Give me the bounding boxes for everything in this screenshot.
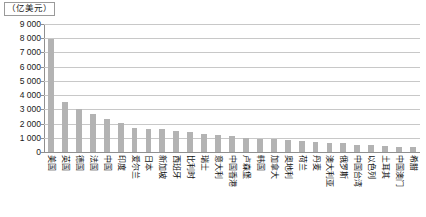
x-label-slot: 土耳其 bbox=[378, 153, 392, 217]
gridline bbox=[44, 52, 420, 53]
bar bbox=[187, 132, 193, 152]
x-label-slot: 中国台湾 bbox=[350, 153, 364, 217]
gridline bbox=[44, 24, 420, 25]
x-label-slot: 卢森堡 bbox=[239, 153, 253, 217]
bar bbox=[62, 102, 68, 152]
x-label-slot: 希腊 bbox=[406, 153, 420, 217]
x-tick-label: 土耳其 bbox=[381, 155, 389, 179]
x-label-slot: 澳大利亚 bbox=[323, 153, 337, 217]
bar bbox=[76, 109, 82, 152]
y-axis-labels: 9 0008 0007 0006 0005 0004 0003 0002 000… bbox=[0, 0, 44, 217]
x-tick-label: 中国 bbox=[103, 155, 111, 171]
bar bbox=[382, 146, 388, 152]
x-label-slot: 爱尔兰 bbox=[128, 153, 142, 217]
x-tick-label: 法国 bbox=[89, 155, 97, 171]
y-tick-label: 2 000 bbox=[2, 120, 44, 129]
y-tick-label: 3 000 bbox=[2, 105, 44, 114]
x-label-slot: 德国 bbox=[72, 153, 86, 217]
x-label-slot: 法国 bbox=[86, 153, 100, 217]
bar bbox=[313, 142, 319, 152]
bar bbox=[257, 139, 263, 153]
x-label-slot: 加拿大 bbox=[267, 153, 281, 217]
bar-chart: （亿美元） 9 0008 0007 0006 0005 0004 0003 00… bbox=[0, 0, 426, 217]
x-label-slot: 日本 bbox=[141, 153, 155, 217]
x-label-slot: 意大利 bbox=[211, 153, 225, 217]
bar bbox=[243, 138, 249, 152]
y-tick-label: 5 000 bbox=[2, 77, 44, 86]
x-tick-label: 以色列 bbox=[367, 155, 375, 179]
x-label-slot: 西班牙 bbox=[169, 153, 183, 217]
x-tick-label: 荷兰 bbox=[298, 155, 306, 171]
x-axis-labels: 美国英国德国法国中国印度爱尔兰日本新加坡西班牙比利时瑞士意大利中国香港卢森堡韩国… bbox=[44, 153, 420, 217]
y-tick-label: 8 000 bbox=[2, 34, 44, 43]
x-label-slot: 中国澳门 bbox=[392, 153, 406, 217]
gridline bbox=[44, 95, 420, 96]
x-label-slot: 荷兰 bbox=[295, 153, 309, 217]
gridline bbox=[44, 109, 420, 110]
x-tick-label: 意大利 bbox=[214, 155, 222, 179]
x-tick-label: 中国香港 bbox=[228, 155, 236, 187]
y-tick-label: 7 000 bbox=[2, 48, 44, 57]
x-tick-label: 爱尔兰 bbox=[131, 155, 139, 179]
bar bbox=[132, 128, 138, 152]
gridline bbox=[44, 81, 420, 82]
x-tick-label: 德国 bbox=[75, 155, 83, 171]
gridline bbox=[44, 124, 420, 125]
x-tick-label: 印度 bbox=[117, 155, 125, 171]
x-label-slot: 奥地利 bbox=[281, 153, 295, 217]
x-tick-label: 澳大利亚 bbox=[325, 155, 333, 187]
x-label-slot: 中国 bbox=[100, 153, 114, 217]
bar bbox=[410, 147, 416, 152]
y-tick-label: 0 bbox=[2, 148, 44, 157]
y-tick-label: 4 000 bbox=[2, 91, 44, 100]
x-tick-label: 加拿大 bbox=[270, 155, 278, 179]
bar bbox=[146, 129, 152, 152]
gridline bbox=[44, 67, 420, 68]
x-tick-label: 新加坡 bbox=[158, 155, 166, 179]
bar bbox=[327, 143, 333, 152]
x-tick-label: 英国 bbox=[61, 155, 69, 171]
bar bbox=[215, 135, 221, 152]
x-tick-label: 西班牙 bbox=[172, 155, 180, 179]
x-tick-label: 奥地利 bbox=[284, 155, 292, 179]
bar bbox=[396, 147, 402, 152]
bar bbox=[173, 131, 179, 152]
x-label-slot: 丹麦 bbox=[309, 153, 323, 217]
x-label-slot: 新加坡 bbox=[155, 153, 169, 217]
bar bbox=[159, 129, 165, 152]
x-tick-label: 韩国 bbox=[256, 155, 264, 171]
x-tick-label: 希腊 bbox=[409, 155, 417, 171]
x-label-slot: 中国香港 bbox=[225, 153, 239, 217]
x-label-slot: 比利时 bbox=[183, 153, 197, 217]
y-tick-label: 6 000 bbox=[2, 63, 44, 72]
x-tick-label: 俄罗斯 bbox=[339, 155, 347, 179]
x-label-slot: 印度 bbox=[114, 153, 128, 217]
x-label-slot: 瑞士 bbox=[197, 153, 211, 217]
x-tick-label: 卢森堡 bbox=[242, 155, 250, 179]
bar bbox=[354, 145, 360, 152]
bar bbox=[299, 141, 305, 152]
x-tick-label: 丹麦 bbox=[312, 155, 320, 171]
bar bbox=[104, 119, 110, 152]
y-tick-label: 9 000 bbox=[2, 20, 44, 29]
x-label-slot: 美国 bbox=[44, 153, 58, 217]
gridline bbox=[44, 38, 420, 39]
plot-area bbox=[44, 24, 420, 152]
x-label-slot: 俄罗斯 bbox=[336, 153, 350, 217]
bar bbox=[229, 136, 235, 152]
bar bbox=[118, 123, 124, 152]
bar bbox=[340, 143, 346, 152]
bar bbox=[285, 140, 291, 152]
x-tick-label: 中国澳门 bbox=[395, 155, 403, 187]
bar bbox=[201, 134, 207, 152]
x-tick-label: 瑞士 bbox=[200, 155, 208, 171]
x-label-slot: 韩国 bbox=[253, 153, 267, 217]
bar bbox=[271, 139, 277, 152]
x-tick-label: 日本 bbox=[144, 155, 152, 171]
x-tick-label: 中国台湾 bbox=[353, 155, 361, 187]
bar bbox=[368, 145, 374, 152]
y-tick-label: 1 000 bbox=[2, 134, 44, 143]
bar bbox=[48, 39, 54, 152]
x-tick-label: 比利时 bbox=[186, 155, 194, 179]
x-label-slot: 英国 bbox=[58, 153, 72, 217]
